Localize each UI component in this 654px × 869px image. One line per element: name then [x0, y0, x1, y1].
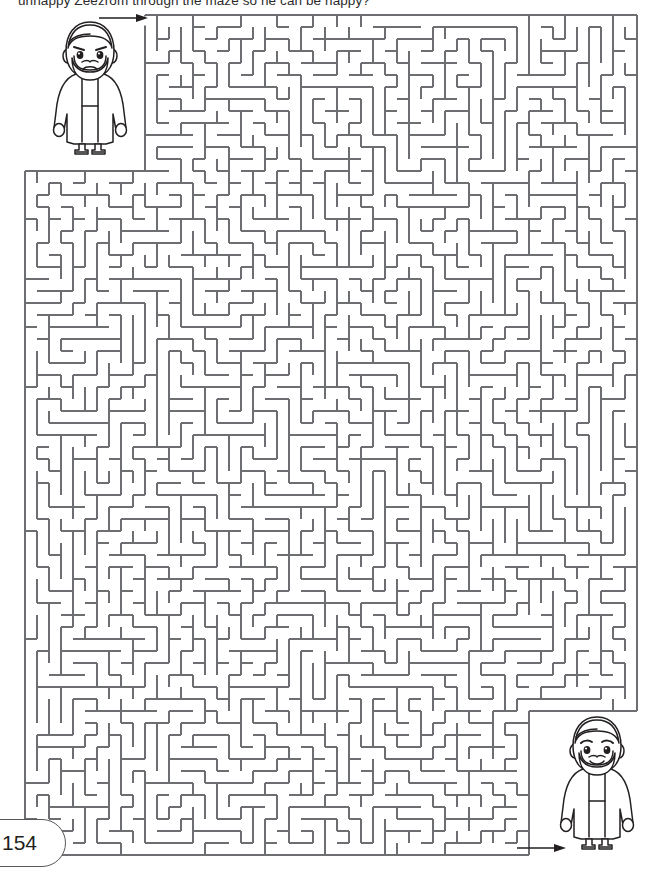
page-number: 154	[0, 819, 70, 869]
character-zeezrom-happy	[551, 713, 643, 851]
character-zeezrom-unhappy	[44, 18, 136, 156]
page-number-value: 154	[2, 831, 37, 855]
